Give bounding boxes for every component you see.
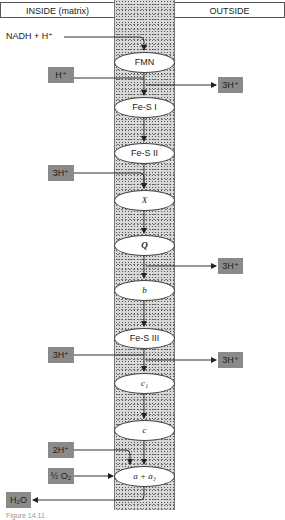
node-fes1: Fe-S I [114, 97, 175, 118]
water-box: H₂O [6, 492, 31, 508]
node-fes2: Fe-S II [114, 143, 175, 164]
node-c: c [114, 420, 175, 441]
nadh-label: NADH + H⁺ [6, 31, 53, 41]
proton-box-fmn: H⁺ [48, 67, 74, 83]
oxygen-box: ½ O₂ [48, 468, 74, 484]
outside-proton-box-2: 3H⁺ [218, 258, 243, 274]
outside-proton-box-1: 3H⁺ [218, 77, 243, 93]
outside-proton-box-3: 3H⁺ [218, 352, 243, 368]
proton-box-x: 3H⁺ [48, 165, 74, 181]
node-aa3: a + a₃ [114, 466, 175, 487]
proton-box-aa3: 2H⁺ [48, 442, 74, 458]
node-q: Q [114, 235, 175, 256]
node-x: X [114, 190, 175, 211]
node-fes3: Fe-S III [114, 328, 175, 349]
proton-box-fes3: 3H⁺ [48, 347, 74, 363]
figure-caption: Figure 14.11 [6, 512, 45, 519]
node-fmn: FMN [114, 52, 175, 73]
node-c1: c₁ [114, 373, 175, 394]
node-b: b [114, 280, 175, 301]
